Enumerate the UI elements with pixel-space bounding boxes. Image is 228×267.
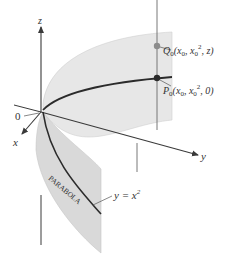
point-P0	[154, 75, 160, 81]
z-axis-label: z	[37, 15, 42, 26]
parabolic-cylinder-diagram: z y x 0 PARABOLA y = x2 Q0(x0, x02, z) P…	[0, 0, 228, 267]
curve-label: y = x2	[113, 188, 141, 201]
x-axis-label: x	[12, 136, 18, 148]
point-Q0	[154, 43, 160, 49]
origin-label: 0	[15, 110, 21, 122]
origin-leader	[24, 113, 39, 116]
y-axis-label: y	[200, 150, 206, 162]
